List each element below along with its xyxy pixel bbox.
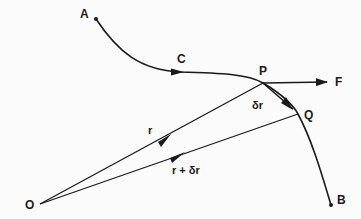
label-p: P [259,64,267,78]
label-c: C [177,52,186,66]
r-vector [40,83,263,204]
label-r-plus-dr: r + δr [172,164,200,176]
label-a: A [80,7,89,21]
diagram-svg: A C P F δr Q r r + δr B O [0,0,361,219]
point-b-dot [329,203,333,207]
point-a-dot [94,17,98,21]
force-vector [263,82,327,83]
label-q: Q [304,108,313,122]
label-o: O [25,198,34,212]
diagram-canvas: A C P F δr Q r r + δr B O [0,0,361,219]
label-delta-r: δr [252,99,264,111]
r-plus-dr-vector [40,114,298,204]
r-plus-dr-arrow-icon [170,152,185,163]
label-r: r [148,124,153,136]
label-f: F [335,75,342,89]
label-b: B [337,193,346,207]
curve-direction-arrow-icon [171,69,184,76]
trajectory-curve [96,19,331,205]
